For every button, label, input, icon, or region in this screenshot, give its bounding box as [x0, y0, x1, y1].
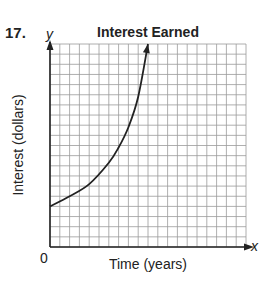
grid-lines	[50, 44, 246, 247]
curve-arrow-icon	[143, 44, 150, 53]
plot-area	[0, 0, 270, 283]
